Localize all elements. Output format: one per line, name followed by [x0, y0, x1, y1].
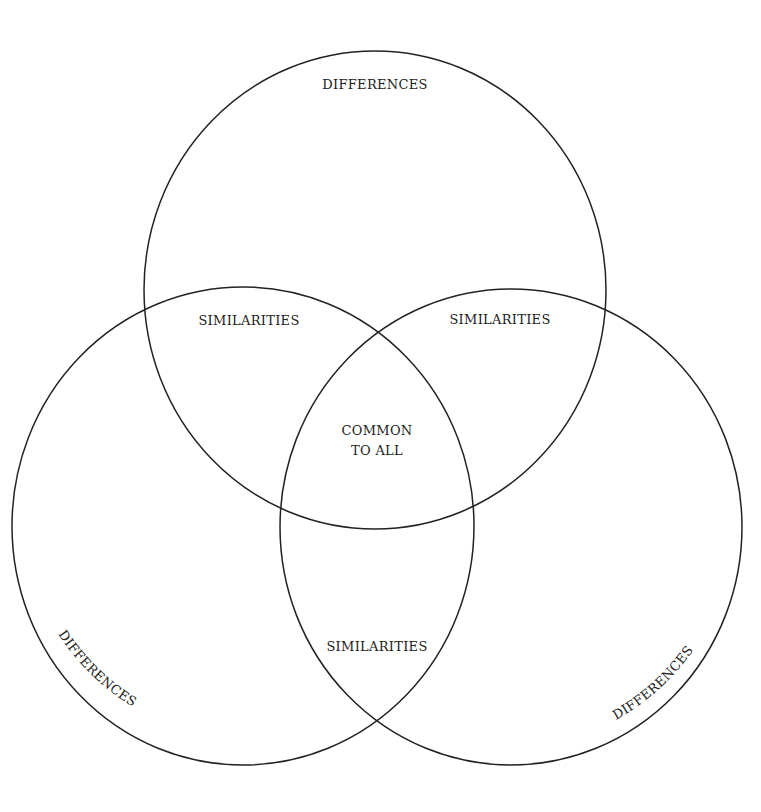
top-right-similarities-label: SIMILARITIES: [449, 312, 550, 327]
left-circle: [12, 287, 474, 765]
venn-diagram: DIFFERENCES SIMILARITIES SIMILARITIES CO…: [0, 0, 761, 812]
top-left-similarities-label: SIMILARITIES: [198, 313, 299, 328]
right-differences-label: DIFFERENCES: [610, 643, 696, 723]
venn-svg: DIFFERENCES SIMILARITIES SIMILARITIES CO…: [0, 0, 761, 812]
left-differences-label: DIFFERENCES: [55, 627, 139, 709]
bottom-similarities-label: SIMILARITIES: [326, 639, 427, 654]
top-differences-label: DIFFERENCES: [322, 77, 427, 92]
common-label-line1: COMMON: [341, 423, 412, 438]
common-label-line2: TO ALL: [351, 443, 403, 458]
